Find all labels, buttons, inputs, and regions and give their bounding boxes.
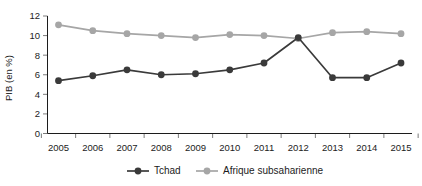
data-point[interactable] (89, 72, 96, 79)
legend-label[interactable]: Afrique subsaharienne (223, 165, 324, 176)
y-tick-label: 6 (35, 69, 40, 80)
y-tick-label: 12 (29, 10, 40, 21)
data-point[interactable] (158, 71, 165, 78)
data-point[interactable] (363, 74, 370, 81)
x-tick-label: 2008 (151, 142, 172, 153)
series-line (59, 38, 402, 81)
x-tick-label: 2006 (82, 142, 103, 153)
x-axis-ticks: 2005200620072008200920102011201220132014… (41, 134, 418, 153)
y-tick-label: 8 (35, 50, 40, 61)
x-tick-label: 2010 (219, 142, 240, 153)
data-point[interactable] (124, 66, 131, 73)
x-tick-label: 2012 (288, 142, 309, 153)
data-point[interactable] (124, 30, 131, 37)
x-tick-label: 2014 (356, 142, 377, 153)
x-tick-label: 2007 (116, 142, 137, 153)
data-point[interactable] (89, 27, 96, 34)
data-point[interactable] (226, 66, 233, 73)
y-tick-label: 0 (35, 128, 40, 139)
legend-label[interactable]: Tchad (154, 165, 181, 176)
data-point[interactable] (226, 31, 233, 38)
x-tick-label: 2009 (185, 142, 206, 153)
series-layer (55, 21, 404, 84)
data-point[interactable] (158, 32, 165, 39)
chart-legend: TchadAfrique subsaharienne (127, 165, 324, 176)
data-point[interactable] (55, 21, 62, 28)
legend-marker (135, 168, 142, 175)
data-point[interactable] (55, 77, 62, 84)
data-point[interactable] (329, 74, 336, 81)
data-point[interactable] (192, 70, 199, 77)
line-chart: PIB (en %) 024681012 2005200620072008200… (0, 0, 422, 186)
y-tick-label: 4 (35, 89, 40, 100)
x-tick-label: 2015 (390, 142, 411, 153)
x-tick-label: 2005 (48, 142, 69, 153)
x-tick-label: 2013 (322, 142, 343, 153)
data-point[interactable] (295, 34, 302, 41)
data-point[interactable] (363, 28, 370, 35)
y-tick-label: 2 (35, 108, 40, 119)
y-axis-title-label: PIB (en %) (3, 55, 14, 101)
legend-marker (204, 168, 211, 175)
data-point[interactable] (261, 32, 268, 39)
y-axis-ticks: 024681012 (29, 10, 47, 139)
data-point[interactable] (398, 60, 405, 67)
y-axis-title: PIB (en %) (3, 55, 14, 101)
x-tick-label: 2011 (254, 142, 274, 153)
chart-container: PIB (en %) 024681012 2005200620072008200… (0, 0, 422, 186)
data-point[interactable] (192, 34, 199, 41)
data-point[interactable] (398, 30, 405, 37)
data-point[interactable] (329, 29, 336, 36)
y-tick-label: 10 (29, 30, 40, 41)
data-point[interactable] (261, 60, 268, 67)
